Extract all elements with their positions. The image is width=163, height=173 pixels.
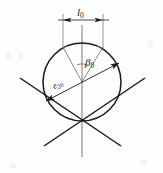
scan-artifact <box>6 52 11 59</box>
right-tangent-line <box>44 78 145 146</box>
diameter-dimension-line-e20 <box>46 63 119 101</box>
angle-leg-left <box>63 47 82 82</box>
scan-artifact <box>140 160 147 165</box>
scan-artifact <box>148 40 153 47</box>
scan-artifact <box>10 163 16 168</box>
technical-drawing-figure: l0 e20 β0 <box>0 0 163 173</box>
scan-artifact <box>19 53 23 59</box>
figure-canvas <box>0 0 163 173</box>
